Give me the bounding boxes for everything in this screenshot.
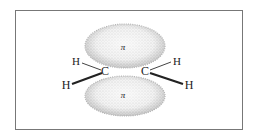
hydrogen-atom-upper-left: H	[72, 55, 80, 67]
pi-label-lower: π	[121, 90, 126, 100]
carbon-atom-left: C	[101, 64, 109, 78]
hydrogen-atom-upper-right: H	[173, 55, 181, 67]
bond-c2-h-lower	[150, 73, 183, 84]
pi-label-upper: π	[121, 42, 126, 52]
hydrogen-atom-lower-left: H	[62, 78, 71, 92]
hydrogen-atom-lower-right: H	[185, 78, 194, 92]
carbon-atom-right: C	[141, 64, 149, 78]
ethylene-pi-bond-diagram: π π C C H H H H	[0, 0, 256, 134]
bond-c2-h-upper	[150, 62, 171, 70]
bond-c1-h-upper	[82, 63, 101, 70]
